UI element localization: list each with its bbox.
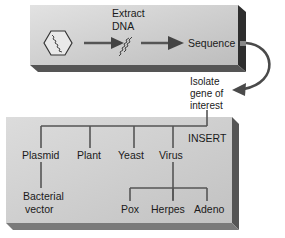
vector-virus: Virus (159, 149, 183, 161)
isolate-label-line3: interest (190, 100, 223, 112)
insert-label: INSERT (188, 132, 226, 144)
virus-pox: Pox (121, 203, 139, 215)
extract-label-line2: DNA (112, 20, 134, 32)
extract-label-line1: Extract (112, 7, 145, 19)
vector-plasmid: Plasmid (22, 149, 59, 161)
vector-yeast: Yeast (118, 149, 144, 161)
isolate-label-line2: gene of (190, 88, 223, 100)
virus-herpes: Herpes (151, 203, 185, 215)
bacterial-vector-line1: Bacterial (23, 190, 64, 202)
isolate-label-line1: Isolate (190, 76, 219, 88)
vector-plant: Plant (77, 149, 101, 161)
sequence-label: Sequence (188, 37, 235, 49)
bacterial-vector-line2: vector (25, 203, 54, 215)
virus-adeno: Adeno (194, 203, 224, 215)
